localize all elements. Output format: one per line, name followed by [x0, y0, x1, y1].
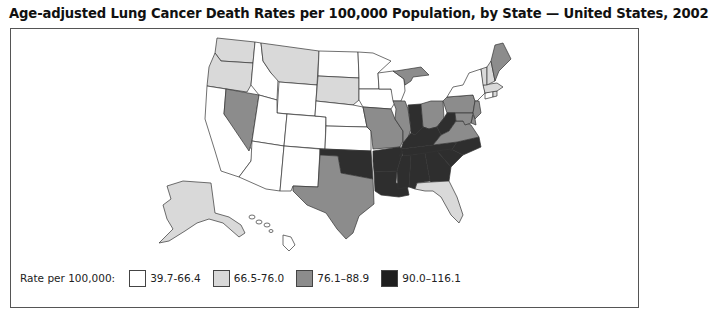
legend-range: 66.5-76.0: [234, 272, 285, 284]
legend-item: 76.1–88.9: [296, 270, 369, 287]
legend-item: 39.7-66.4: [129, 270, 201, 287]
legend-swatch-light-gray: [213, 270, 230, 287]
legend-item: 90.0–116.1: [381, 270, 461, 287]
legend: Rate per 100,000: 39.7-66.4 66.5-76.0 76…: [20, 268, 473, 288]
state-NM: [280, 146, 320, 191]
state-ND: [318, 51, 359, 78]
state-HI: [249, 215, 295, 251]
state-WY: [277, 82, 317, 116]
state-AK: [159, 181, 245, 243]
state-IA: [359, 89, 396, 109]
legend-swatch-medium-gray: [296, 270, 313, 287]
legend-range: 76.1–88.9: [317, 272, 369, 284]
state-SD: [316, 76, 359, 105]
state-WA: [215, 38, 255, 63]
legend-range: 39.7-66.4: [150, 272, 201, 284]
map-title: Age-adjusted Lung Cancer Death Rates per…: [9, 6, 709, 21]
state-ME: [491, 43, 511, 81]
legend-swatch-dark: [381, 270, 398, 287]
state-FL: [415, 181, 463, 223]
us-choropleth-map: [11, 29, 640, 309]
legend-label: Rate per 100,000:: [20, 272, 115, 284]
legend-swatch-white: [129, 270, 146, 287]
state-PA: [443, 95, 475, 113]
state-KS: [325, 126, 371, 151]
state-NJ: [473, 101, 481, 119]
legend-item: 66.5-76.0: [213, 270, 285, 287]
state-CO: [284, 114, 326, 149]
legend-range: 90.0–116.1: [402, 272, 461, 284]
map-frame: Rate per 100,000: 39.7-66.4 66.5-76.0 76…: [10, 28, 639, 308]
